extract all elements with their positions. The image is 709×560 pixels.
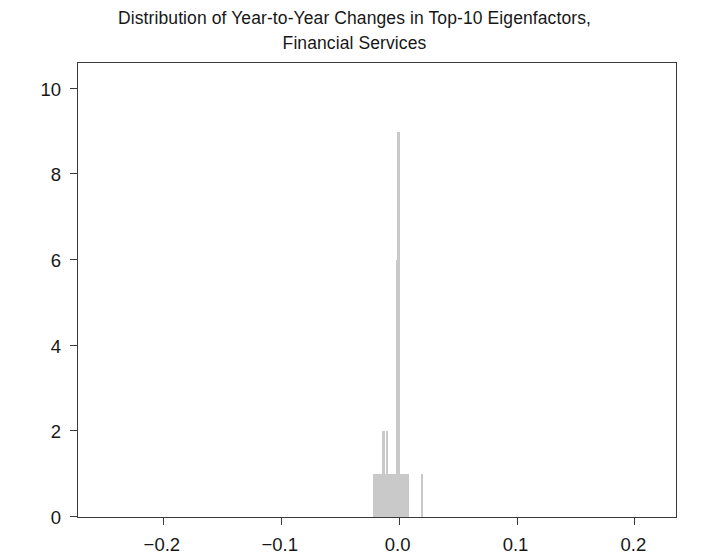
y-axis-tick-label: 8: [13, 166, 61, 185]
y-axis-tick: [70, 259, 78, 260]
x-axis-tick: [399, 517, 400, 525]
chart-title-line-2: Financial Services: [0, 31, 709, 56]
histogram-bars: [78, 63, 676, 517]
chart-figure: Distribution of Year-to-Year Changes in …: [0, 0, 709, 560]
x-axis-tick-label: −0.1: [235, 536, 325, 555]
x-axis-tick-label: 0.1: [471, 536, 561, 555]
chart-title-line-1: Distribution of Year-to-Year Changes in …: [118, 8, 591, 28]
x-axis-tick: [281, 517, 282, 525]
histogram-bar: [406, 474, 408, 517]
x-axis-tick: [163, 517, 164, 525]
y-axis-tick: [70, 516, 78, 517]
y-axis-tick: [70, 430, 78, 431]
x-axis-tick: [517, 517, 518, 525]
plot-area: [77, 62, 677, 518]
y-axis-tick-label: 2: [13, 423, 61, 442]
y-axis-tick: [70, 345, 78, 346]
x-axis-tick-label: 0.2: [588, 536, 678, 555]
y-axis-tick-label: 0: [13, 509, 61, 528]
y-axis-tick-label: 4: [13, 338, 61, 357]
histogram-bar: [397, 132, 399, 517]
y-axis-tick-label: 6: [13, 252, 61, 271]
y-axis-tick: [70, 88, 78, 89]
chart-title: Distribution of Year-to-Year Changes in …: [0, 6, 709, 56]
y-axis-tick: [70, 173, 78, 174]
y-axis-tick-label: 10: [13, 81, 61, 100]
x-axis-tick-label: −0.2: [117, 536, 207, 555]
histogram-bar: [421, 474, 423, 517]
x-axis-tick-label: 0.0: [353, 536, 443, 555]
x-axis-tick: [634, 517, 635, 525]
